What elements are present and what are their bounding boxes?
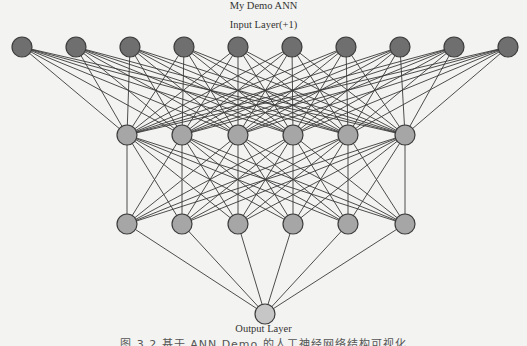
connection-edges	[22, 47, 508, 314]
figure-caption: 图 3.2 基于 ANN Demo 的人工神经网络结构可视化	[0, 338, 527, 346]
input-node-3	[120, 37, 140, 57]
edge-input-hidden1	[184, 47, 293, 135]
hidden2-node-1	[117, 214, 137, 234]
edge-hidden2-output	[182, 224, 265, 314]
hidden1-node-1	[117, 125, 137, 145]
output-layer-label: Output Layer	[0, 323, 527, 334]
diagram-title: My Demo ANN	[0, 0, 527, 11]
input-node-10	[498, 37, 518, 57]
edge-input-hidden1	[22, 47, 127, 135]
edge-hidden2-output	[127, 224, 265, 314]
edge-hidden2-output	[265, 224, 293, 314]
hidden2-node-3	[228, 214, 248, 234]
input-node-7	[336, 37, 356, 57]
input-node-9	[444, 37, 464, 57]
output-node-1	[255, 304, 275, 324]
hidden2-node-5	[338, 214, 358, 234]
input-node-6	[282, 37, 302, 57]
edge-input-hidden1	[182, 47, 508, 135]
edge-input-hidden1	[127, 47, 346, 135]
hidden2-node-4	[283, 214, 303, 234]
input-node-1	[12, 37, 32, 57]
hidden2-node-2	[172, 214, 192, 234]
edge-input-hidden1	[127, 47, 454, 135]
input-node-5	[228, 37, 248, 57]
hidden1-node-6	[395, 125, 415, 145]
edge-input-hidden1	[76, 47, 127, 135]
hidden1-node-3	[228, 125, 248, 145]
input-node-8	[390, 37, 410, 57]
hidden1-node-4	[283, 125, 303, 145]
input-node-2	[66, 37, 86, 57]
hidden1-node-5	[338, 125, 358, 145]
edge-input-hidden1	[76, 47, 182, 135]
hidden2-node-6	[395, 214, 415, 234]
input-layer-label: Input Layer(+1)	[0, 19, 527, 30]
hidden1-node-2	[172, 125, 192, 145]
neural-network-diagram	[0, 0, 527, 346]
edge-hidden2-output	[238, 224, 265, 314]
input-node-4	[174, 37, 194, 57]
